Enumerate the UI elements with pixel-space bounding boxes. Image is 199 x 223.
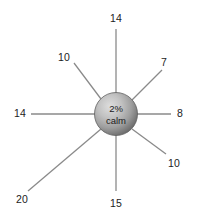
calm-hub	[95, 93, 138, 136]
wind-rose-diagram: 2% calm	[0, 0, 199, 223]
ray-se	[132, 129, 166, 154]
ray-label-e: 8	[177, 108, 183, 119]
ray-ne	[132, 70, 162, 100]
ray-label-w: 14	[14, 108, 26, 119]
ray-label-n: 14	[110, 13, 122, 24]
ray-nw	[74, 63, 101, 99]
ray-label-nw: 10	[58, 52, 70, 63]
ray-label-ne: 7	[161, 57, 167, 68]
wind-rose-figure: 2% calm 14 7 8 10 15 20 14 10	[0, 0, 199, 223]
ray-label-sw: 20	[16, 194, 28, 205]
ray-label-se: 10	[168, 158, 180, 169]
calm-word-label: calm	[106, 115, 126, 126]
ray-label-s: 15	[110, 198, 122, 209]
calm-percent-label: 2%	[109, 103, 123, 114]
ray-sw	[28, 129, 101, 191]
